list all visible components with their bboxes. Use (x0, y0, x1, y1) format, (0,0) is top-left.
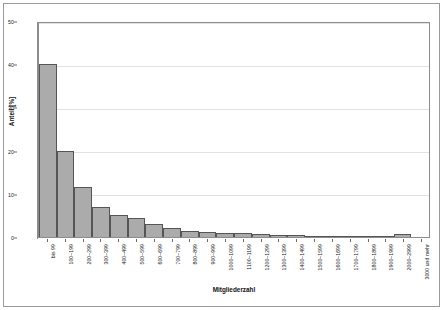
x-axis: bis 99100–199200–299300–399400–499500–59… (38, 239, 430, 289)
x-tick-slot: 1600–1699 (323, 239, 341, 289)
bar-slot (252, 23, 270, 237)
x-tick-mark (154, 239, 155, 242)
x-tick-mark (403, 239, 404, 242)
bar (145, 224, 163, 237)
bar (92, 207, 110, 237)
bar-slot (216, 23, 234, 237)
x-tick-slot: 1700–1799 (341, 239, 359, 289)
bar-series (39, 23, 429, 237)
x-tick-slot: 1900–1999 (376, 239, 394, 289)
x-axis-title: Mitgliederzahl (38, 286, 430, 293)
bar-slot (199, 23, 217, 237)
x-tick-mark (296, 239, 297, 242)
x-tick-mark (261, 239, 262, 242)
x-tick-slot: 1200–1299 (252, 239, 270, 289)
x-tick-slot: 800–899 (181, 239, 199, 289)
x-tick-mark (368, 239, 369, 242)
x-tick-mark (172, 239, 173, 242)
bar (110, 215, 128, 237)
bar (376, 236, 394, 237)
y-axis-title: Anteil [%] (8, 77, 15, 147)
x-tick-slot: 1400–1499 (287, 239, 305, 289)
bar-slot (39, 23, 57, 237)
bar-slot (57, 23, 75, 237)
x-tick-mark (314, 239, 315, 242)
x-tick-mark (421, 239, 422, 242)
bar (216, 233, 234, 237)
x-tick-mark (83, 239, 84, 242)
bar-slot (234, 23, 252, 237)
bar (163, 228, 181, 237)
bar-slot (323, 23, 341, 237)
bar-slot (270, 23, 288, 237)
x-tick-mark (278, 239, 279, 242)
bar-slot (358, 23, 376, 237)
x-tick-mark (350, 239, 351, 242)
bar (270, 235, 288, 237)
x-tick-mark (118, 239, 119, 242)
x-tick-mark (65, 239, 66, 242)
bar-slot (181, 23, 199, 237)
bar-slot (128, 23, 146, 237)
x-tick-mark (136, 239, 137, 242)
y-tick-mark (14, 238, 17, 239)
x-tick-mark (207, 239, 208, 242)
x-tick-mark (243, 239, 244, 242)
x-tick-slot: 600–699 (145, 239, 163, 289)
y-tick-mark (14, 151, 17, 152)
x-tick-slot: 400–499 (109, 239, 127, 289)
x-tick-mark (100, 239, 101, 242)
x-tick-mark (189, 239, 190, 242)
bar (181, 231, 199, 237)
bar-slot (287, 23, 305, 237)
bar (358, 236, 376, 237)
bar (323, 236, 341, 237)
x-tick-slot: 200–299 (74, 239, 92, 289)
bar-slot (340, 23, 358, 237)
bar (287, 235, 305, 237)
x-tick-slot: bis 99 (38, 239, 56, 289)
x-tick-slot: 1500–1599 (305, 239, 323, 289)
x-tick-slot: 3000 und mehr (412, 239, 430, 289)
x-tick-mark (47, 239, 48, 242)
y-axis: Anteil [%] 01020304050 (0, 0, 38, 260)
x-tick-mark (332, 239, 333, 242)
y-tick-mark (14, 65, 17, 66)
bar (305, 236, 323, 238)
bar-slot (376, 23, 394, 237)
x-tick-slot: 1100–1199 (234, 239, 252, 289)
y-tick-mark (14, 194, 17, 195)
bar-slot (163, 23, 181, 237)
bar-slot (394, 23, 412, 237)
bar-slot (305, 23, 323, 237)
bar-slot (92, 23, 110, 237)
plot-area (38, 22, 430, 238)
bar (39, 64, 57, 237)
x-tick-slot: 1300–1399 (270, 239, 288, 289)
bar (74, 187, 92, 237)
x-tick-slot: 2000–2999 (394, 239, 412, 289)
x-tick-slot: 1000–1099 (216, 239, 234, 289)
bar-slot (74, 23, 92, 237)
bar (252, 234, 270, 237)
x-tick-slot: 100–199 (56, 239, 74, 289)
x-tick-slot: 1800–1899 (359, 239, 377, 289)
x-tick-slot: 900–999 (198, 239, 216, 289)
bar-slot (145, 23, 163, 237)
bar-slot (411, 23, 429, 237)
bar (394, 234, 412, 237)
bar-slot (110, 23, 128, 237)
bar (234, 233, 252, 237)
x-tick-slot: 500–599 (127, 239, 145, 289)
bar (199, 232, 217, 237)
x-tick-mark (225, 239, 226, 242)
y-tick-mark (14, 108, 17, 109)
x-tick-mark (385, 239, 386, 242)
x-tick-slot: 300–399 (91, 239, 109, 289)
bar (57, 151, 75, 237)
bar (340, 236, 358, 237)
chart-figure: Anteil [%] 01020304050 bis 99100–199200–… (0, 0, 443, 310)
x-tick-label: 3000 und mehr (424, 244, 430, 280)
bar (128, 218, 146, 237)
y-tick-mark (14, 22, 17, 23)
